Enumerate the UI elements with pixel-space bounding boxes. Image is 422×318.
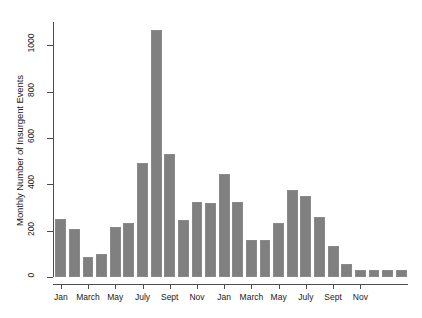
x-axis-tick: [251, 284, 252, 289]
bar: [69, 229, 80, 277]
x-axis-line: [53, 284, 408, 285]
x-axis-tick-label: Nov: [353, 292, 368, 302]
bar: [83, 257, 94, 277]
bar: [287, 190, 298, 277]
bar: [123, 223, 134, 277]
bar: [246, 240, 257, 277]
bar: [205, 203, 216, 277]
x-axis-tick: [360, 284, 361, 289]
bar: [396, 270, 407, 277]
y-axis-tick: [47, 277, 53, 278]
y-axis-tick-label: 1000: [26, 32, 36, 54]
x-axis-tick: [224, 284, 225, 289]
bar: [110, 227, 121, 277]
x-axis-tick-label: March: [76, 292, 100, 302]
bar: [151, 30, 162, 277]
x-axis-tick-label: May: [271, 292, 287, 302]
y-axis-tick: [47, 92, 53, 93]
bar: [164, 154, 175, 277]
y-axis-tick-label: 200: [26, 218, 36, 240]
bar: [328, 246, 339, 277]
x-axis-tick-label: July: [298, 292, 313, 302]
x-axis-tick: [279, 284, 280, 289]
bar: [178, 220, 189, 277]
x-axis-tick-label: May: [107, 292, 123, 302]
y-axis-tick: [47, 138, 53, 139]
bar: [232, 202, 243, 277]
bars-container: [54, 22, 408, 277]
bar: [300, 196, 311, 277]
y-axis-title: Monthly Number of Insurgent Events: [10, 18, 30, 283]
bar: [137, 163, 148, 277]
x-axis-tick-label: Sept: [324, 292, 342, 302]
x-axis-tick: [197, 284, 198, 289]
x-axis-tick-label: Nov: [189, 292, 204, 302]
x-axis-tick-label: Jan: [217, 292, 231, 302]
insurgent-events-bar-chart: Monthly Number of Insurgent Events 02004…: [0, 0, 422, 318]
bar: [314, 217, 325, 277]
x-axis-tick-label: March: [240, 292, 264, 302]
x-axis-tick-label: July: [135, 292, 150, 302]
y-axis-tick: [47, 231, 53, 232]
x-axis-tick: [306, 284, 307, 289]
y-axis-tick-label: 600: [26, 125, 36, 147]
bar: [55, 219, 66, 277]
bar: [192, 202, 203, 277]
x-axis-tick: [143, 284, 144, 289]
x-axis-tick: [115, 284, 116, 289]
y-axis-tick: [47, 184, 53, 185]
y-axis-tick-label: 400: [26, 171, 36, 193]
bar: [369, 270, 380, 277]
bar: [382, 270, 393, 277]
x-axis-tick: [88, 284, 89, 289]
bar: [260, 240, 271, 277]
bar: [341, 264, 352, 277]
bar: [355, 270, 366, 277]
x-axis-tick: [61, 284, 62, 289]
y-axis-tick-label: 0: [26, 264, 36, 286]
x-axis-tick: [170, 284, 171, 289]
y-axis-tick: [47, 45, 53, 46]
bar: [219, 174, 230, 277]
bar: [273, 223, 284, 277]
x-axis-tick-label: Jan: [54, 292, 68, 302]
x-axis-tick-label: Sept: [161, 292, 179, 302]
x-axis-tick: [333, 284, 334, 289]
y-axis-tick-label: 800: [26, 79, 36, 101]
bar: [96, 254, 107, 277]
